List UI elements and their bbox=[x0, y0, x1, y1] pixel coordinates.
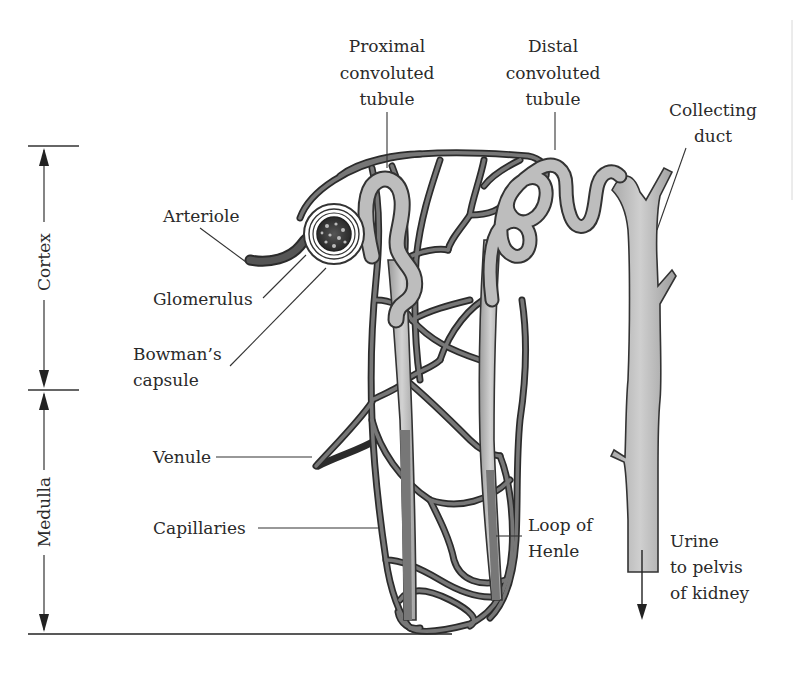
collecting-duct-label-line1: Collecting bbox=[669, 100, 757, 120]
bowmans-capsule-label-line2: capsule bbox=[133, 370, 199, 390]
arrow-down-icon bbox=[39, 370, 49, 388]
arrow-down-icon bbox=[637, 604, 647, 620]
glomerulus bbox=[317, 217, 351, 251]
distal-label-line3: tubule bbox=[525, 89, 580, 109]
proximal-label-line2: convoluted bbox=[340, 63, 435, 83]
collecting-duct bbox=[611, 168, 676, 572]
arrow-up-icon bbox=[39, 392, 49, 410]
urine-label-line2: to pelvis bbox=[670, 557, 743, 577]
cortex-label: Cortex bbox=[34, 233, 54, 291]
glomerulus-label: Glomerulus bbox=[153, 289, 253, 309]
labels: Proximal convoluted tubule Distal convol… bbox=[133, 36, 757, 603]
arteriole-label: Arteriole bbox=[162, 206, 240, 226]
urine-label-line3: of kidney bbox=[670, 583, 750, 603]
nephron-diagram: Cortex Medulla bbox=[0, 0, 795, 673]
arrow-down-icon bbox=[39, 614, 49, 632]
urine-label-line1: Urine bbox=[670, 531, 719, 551]
loop-of-henle-label-line2: Henle bbox=[528, 541, 579, 561]
medulla-label: Medulla bbox=[34, 477, 54, 547]
venule-label: Venule bbox=[152, 447, 211, 467]
collecting-duct-label-line2: duct bbox=[694, 126, 732, 146]
arrow-up-icon bbox=[39, 148, 49, 166]
bowmans-capsule-label-line1: Bowman’s bbox=[133, 344, 222, 364]
distal-label-line1: Distal bbox=[528, 36, 578, 56]
capillaries-label: Capillaries bbox=[153, 518, 246, 538]
proximal-label-line1: Proximal bbox=[349, 36, 426, 56]
distal-label-line2: convoluted bbox=[506, 63, 601, 83]
proximal-label-line3: tubule bbox=[359, 89, 414, 109]
loop-of-henle-label-line1: Loop of bbox=[528, 515, 594, 535]
